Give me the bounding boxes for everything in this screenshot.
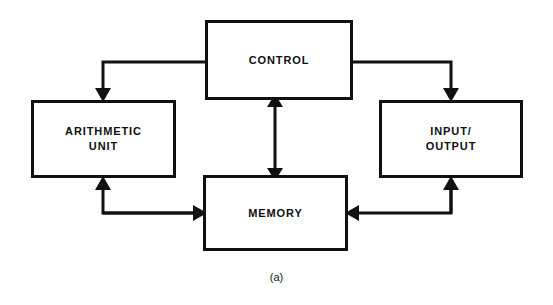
- connector-control-to-arithmetic: [95, 62, 205, 102]
- connector-control-memory-bidirectional: [267, 94, 283, 181]
- memory-box[interactable]: MEMORY: [203, 175, 348, 251]
- input-output-label: INPUT/ OUTPUT: [426, 124, 477, 154]
- input-output-box[interactable]: INPUT/ OUTPUT: [379, 100, 523, 178]
- connector-arithmetic-to-memory: [103, 205, 207, 221]
- arithmetic-unit-label: ARITHMETIC UNIT: [65, 124, 142, 154]
- control-unit-box[interactable]: CONTROL: [205, 20, 353, 100]
- figure-caption: (a): [0, 271, 553, 283]
- connector-memory-to-arithmetic: [95, 176, 203, 213]
- connector-control-to-io: [353, 62, 459, 102]
- connector-io-to-memory: [345, 188, 451, 221]
- control-unit-label: CONTROL: [249, 53, 310, 68]
- arithmetic-unit-box[interactable]: ARITHMETIC UNIT: [31, 100, 176, 178]
- block-diagram-figure: CONTROL ARITHMETIC UNIT INPUT/ OUTPUT ME…: [0, 0, 553, 305]
- connector-memory-to-io: [443, 176, 459, 213]
- memory-label: MEMORY: [248, 206, 303, 221]
